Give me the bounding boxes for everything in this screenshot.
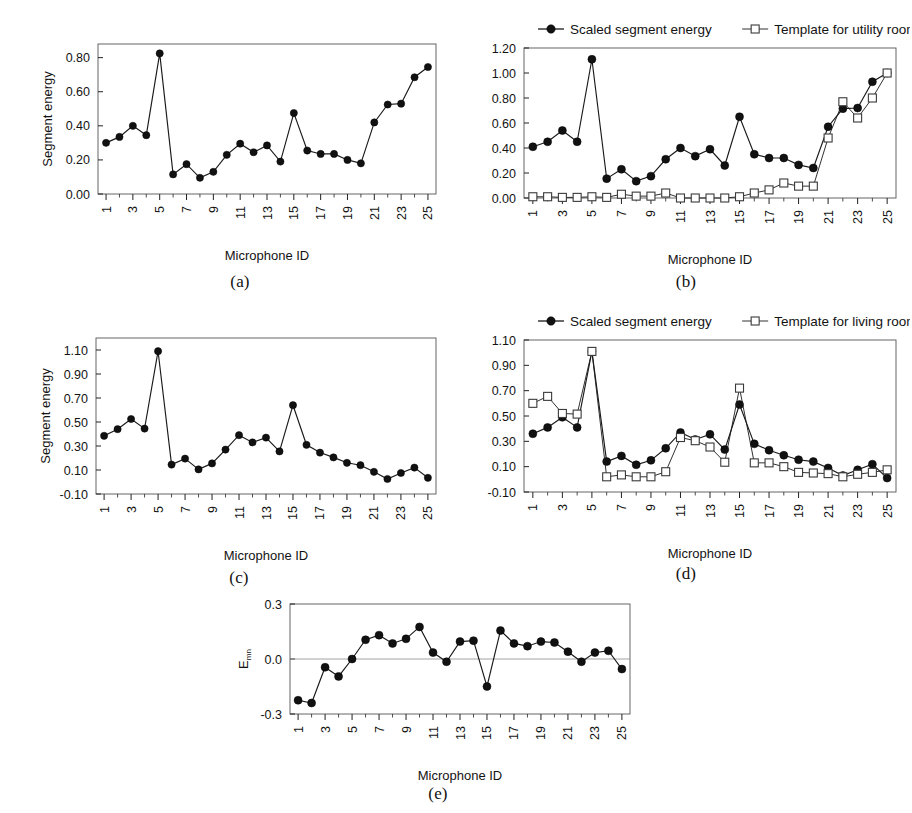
data-point-marker — [632, 473, 640, 481]
data-point-marker — [304, 147, 311, 154]
data-point-marker — [290, 109, 297, 116]
data-point-marker — [676, 144, 684, 152]
panel-b-caption: (b) — [462, 272, 910, 292]
data-point-marker — [632, 192, 640, 200]
data-point-marker — [156, 50, 163, 57]
y-tick-label: 0.00 — [66, 188, 90, 202]
data-point-marker — [647, 456, 655, 464]
x-tick-label: 3 — [556, 210, 570, 217]
data-point-marker — [168, 461, 175, 468]
x-tick-label: 15 — [733, 504, 747, 518]
y-tick-label: -0.10 — [488, 486, 517, 500]
data-point-marker — [544, 392, 552, 400]
x-tick-label: 19 — [341, 206, 355, 220]
data-point-marker — [469, 637, 477, 645]
data-point-marker — [550, 639, 558, 647]
data-point-marker — [558, 409, 566, 417]
data-point-marker — [604, 647, 612, 655]
data-point-marker — [617, 452, 625, 460]
data-point-marker — [129, 122, 136, 129]
data-point-marker — [573, 138, 581, 146]
panel-c-caption: (c) — [28, 568, 450, 588]
x-tick-label: 15 — [286, 506, 300, 520]
data-point-marker — [839, 473, 847, 481]
data-point-marker — [429, 649, 437, 657]
data-point-marker — [223, 151, 230, 158]
data-point-marker — [780, 451, 788, 459]
data-point-marker — [181, 455, 188, 462]
data-point-marker — [676, 434, 684, 442]
legend-label: Scaled segment energy — [570, 314, 712, 329]
data-point-marker — [362, 636, 370, 644]
data-point-marker — [736, 113, 744, 121]
data-point-marker — [883, 69, 891, 77]
x-tick-label: 1 — [292, 726, 306, 733]
data-point-marker — [276, 448, 283, 455]
x-axis-title: Microphone ID — [225, 248, 310, 263]
data-point-marker — [795, 161, 803, 169]
data-point-marker — [868, 94, 876, 102]
x-tick-label: 9 — [644, 504, 658, 511]
data-point-marker — [101, 432, 108, 439]
data-point-marker — [370, 468, 377, 475]
data-point-marker — [721, 458, 729, 466]
x-tick-label: 15 — [733, 210, 747, 224]
data-point-marker — [523, 642, 531, 650]
data-point-marker — [809, 469, 817, 477]
series-line-1 — [533, 59, 887, 181]
data-point-marker — [691, 152, 699, 160]
x-tick-label: 5 — [153, 206, 167, 213]
data-point-marker — [591, 649, 599, 657]
legend-label: Scaled segment energy — [570, 22, 712, 37]
y-tick-label: 0.30 — [64, 440, 88, 454]
data-point-marker — [529, 430, 537, 438]
data-point-marker — [496, 627, 504, 635]
data-point-marker — [544, 138, 552, 146]
x-tick-label: 11 — [674, 210, 688, 223]
x-tick-label: 1 — [526, 504, 540, 511]
data-point-marker — [398, 100, 405, 107]
x-tick-label: 7 — [179, 506, 193, 513]
x-tick-label: 5 — [346, 726, 360, 733]
data-point-marker — [544, 423, 552, 431]
data-point-marker — [662, 444, 670, 452]
x-tick-label: 25 — [421, 206, 435, 220]
panel-e-plot: -0.30.00.3135791113151719212325Microphon… — [228, 588, 648, 788]
y-tick-label: 0.10 — [64, 464, 88, 478]
x-tick-label: 3 — [125, 506, 139, 513]
y-tick-label: 0.3 — [265, 598, 282, 612]
data-point-marker — [736, 193, 744, 201]
data-point-marker — [102, 139, 109, 146]
x-tick-label: 17 — [763, 210, 777, 224]
data-point-marker — [603, 193, 611, 201]
x-tick-label: 19 — [534, 726, 548, 740]
data-point-marker — [632, 461, 640, 469]
data-point-marker — [883, 466, 891, 474]
data-point-marker — [344, 156, 351, 163]
legend-marker-open-square — [751, 25, 759, 33]
x-tick-label: 23 — [851, 504, 865, 518]
x-tick-label: 9 — [206, 506, 220, 513]
x-tick-label: 5 — [585, 504, 599, 511]
data-point-marker — [780, 463, 788, 471]
y-tick-label: 0.40 — [66, 119, 90, 133]
data-point-marker — [676, 194, 684, 202]
x-tick-label: 13 — [704, 504, 718, 518]
y-tick-label: 0.50 — [64, 416, 88, 430]
data-point-marker — [529, 143, 537, 151]
x-tick-label: 1 — [98, 506, 112, 513]
data-point-marker — [573, 193, 581, 201]
x-tick-label: 9 — [400, 726, 414, 733]
x-tick-label: 1 — [100, 206, 114, 213]
data-point-marker — [603, 458, 611, 466]
data-point-marker — [357, 462, 364, 469]
x-axis-title: Microphone ID — [668, 546, 753, 561]
x-tick-label: 23 — [588, 726, 602, 740]
y-tick-label: 0.70 — [492, 384, 516, 398]
x-tick-label: 11 — [234, 206, 248, 219]
y-tick-label: 0.10 — [492, 460, 516, 474]
x-tick-label: 3 — [556, 504, 570, 511]
data-point-marker — [143, 132, 150, 139]
data-point-marker — [529, 193, 537, 201]
series-line-1 — [533, 351, 887, 478]
